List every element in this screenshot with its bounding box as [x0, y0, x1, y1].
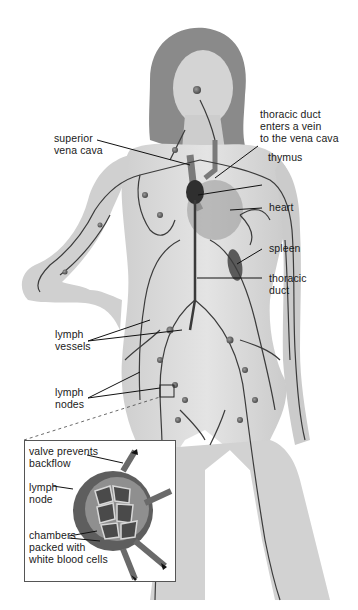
label-lymph-nodes: lymph nodes — [55, 386, 84, 410]
label-spleen: spleen — [269, 242, 301, 254]
inset-label-chambers: chambers packed with white blood cells — [29, 529, 108, 565]
label-heart: heart — [269, 201, 293, 213]
label-superior-vena-cava: superior vena cava — [54, 132, 103, 156]
head — [173, 50, 233, 126]
label-thoracic-duct-enters-vein: thoracic duct enters a vein to the vena … — [260, 108, 339, 144]
lymph-node-inset: valve prevents backflow lymph node chamb… — [24, 440, 176, 582]
inset-label-lymph-node: lymph node — [29, 481, 58, 505]
right-arm — [22, 155, 130, 330]
label-thymus: thymus — [268, 151, 302, 163]
lymphatic-system-diagram: thoracic duct enters a vein to the vena … — [0, 0, 358, 610]
inset-label-valve: valve prevents backflow — [29, 445, 98, 469]
label-thoracic-duct: thoracic duct — [269, 272, 307, 296]
label-lymph-vessels: lymph vessels — [55, 328, 91, 352]
